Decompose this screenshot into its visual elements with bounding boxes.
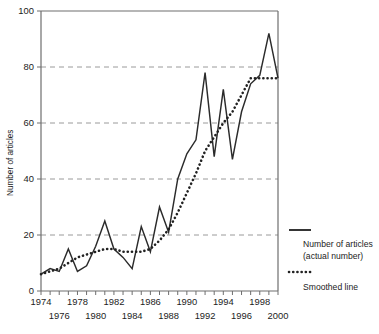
x-tick-label-1994: 1994 xyxy=(213,296,234,307)
legend-label-actual-line1: Number of articles xyxy=(303,239,373,249)
x-tick-label-1992: 1992 xyxy=(195,310,216,321)
x-tick-label-1978: 1978 xyxy=(67,296,88,307)
x-tick-label-2000: 2000 xyxy=(268,310,289,321)
y-axis-title: Number of articles xyxy=(6,130,15,196)
x-tick-label-1990: 1990 xyxy=(176,296,197,307)
series-line-actual xyxy=(41,33,278,274)
chart-figure: 020406080100 197419781982198619901994199… xyxy=(0,0,379,334)
x-tick-label-1986: 1986 xyxy=(140,296,161,307)
line-chart: 020406080100 197419781982198619901994199… xyxy=(0,0,379,334)
chart-legend: Number of articles (actual number) Smoot… xyxy=(289,230,373,292)
x-tick-label-1998: 1998 xyxy=(249,296,270,307)
series-group xyxy=(41,33,278,274)
y-axis-tick-labels: 020406080100 xyxy=(18,5,34,296)
y-tick-label-0: 0 xyxy=(29,285,34,296)
x-tick-label-1996: 1996 xyxy=(231,310,252,321)
legend-label-smoothed-line1: Smoothed line xyxy=(303,282,358,292)
x-tick-label-1980: 1980 xyxy=(85,310,106,321)
x-tick-label-1976: 1976 xyxy=(49,310,70,321)
x-tick-label-1974: 1974 xyxy=(31,296,52,307)
y-tick-label-100: 100 xyxy=(18,5,34,16)
x-tick-label-1988: 1988 xyxy=(158,310,179,321)
y-tick-label-20: 20 xyxy=(24,229,34,240)
legend-label-actual-line2: (actual number) xyxy=(303,251,363,261)
y-tick-label-60: 60 xyxy=(24,117,34,128)
x-axis-tick-labels-lower: 1976198019841988199219962000 xyxy=(49,310,289,321)
x-tick-label-1984: 1984 xyxy=(122,310,143,321)
plot-frame xyxy=(41,11,278,291)
y-tick-label-80: 80 xyxy=(24,61,34,72)
x-tick-label-1982: 1982 xyxy=(103,296,124,307)
y-tick-label-40: 40 xyxy=(24,173,34,184)
x-axis-tick-labels-upper: 1974197819821986199019941998 xyxy=(31,296,271,307)
